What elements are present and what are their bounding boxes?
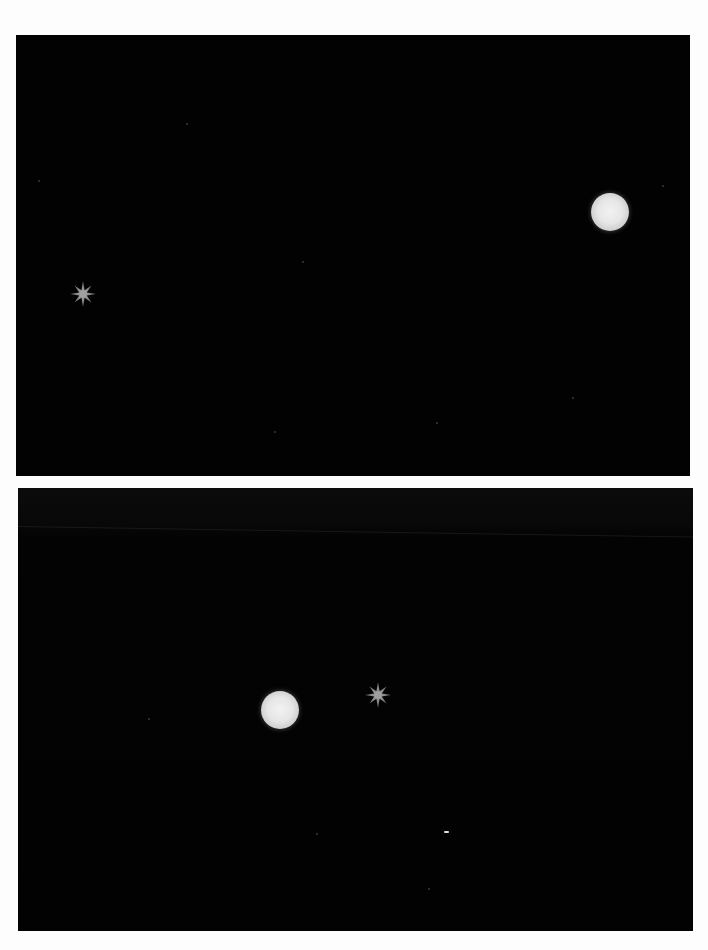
bright-dash — [444, 831, 449, 833]
noise-speck — [148, 718, 150, 720]
noise-speck — [316, 833, 318, 835]
noise-speck — [662, 185, 664, 187]
noise-speck — [436, 422, 438, 424]
noise-speck — [186, 123, 188, 125]
noise-speck — [572, 397, 574, 399]
planet-disc — [591, 193, 629, 231]
noise-speck — [274, 431, 276, 433]
top-sky-photo — [16, 35, 690, 476]
noise-speck — [302, 261, 304, 263]
photo-page — [0, 0, 708, 950]
star-icon — [69, 280, 97, 308]
bottom-sky-photo — [18, 488, 693, 931]
noise-speck — [38, 180, 40, 182]
noise-speck — [428, 888, 430, 890]
star-icon — [364, 681, 392, 709]
planet-disc — [261, 691, 299, 729]
faint-streak — [18, 526, 693, 538]
